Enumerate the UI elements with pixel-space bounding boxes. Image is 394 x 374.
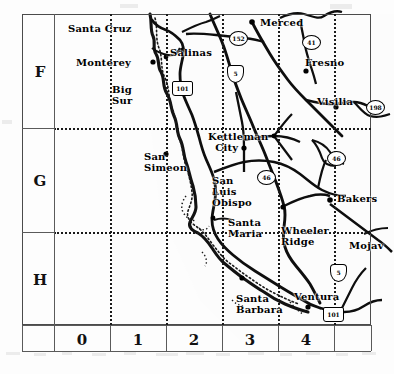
place-label-san-luis-obispo: San Luis Obispo [212,175,252,208]
highway-shield-101-south: 101 [323,307,344,322]
col-gutter-4-right [334,325,335,351]
place-label-kettleman-city: Kettleman City [208,131,268,153]
col-gutter-edge-right [371,325,372,351]
map-container: F G H 0 1 2 3 4 Santa Cruz Monterey Big … [0,0,394,374]
place-label-san-simeon: San Simeon [144,151,187,173]
place-label-monterey: Monterey [76,57,131,68]
highway-shield-46-east: 46 [327,151,346,166]
highway-shield-101-north: 101 [172,81,193,96]
place-label-big-sur: Big Sur [112,84,132,106]
highway-shield-46-west: 46 [257,170,276,185]
grid-col-label-0: 0 [54,331,110,349]
row-rule-g-h [22,232,54,233]
row-rule-f-g [22,128,54,129]
highway-shield-41: 41 [302,35,321,50]
place-label-visilia: Visilia [317,96,353,107]
place-label-merced: Merced [260,17,303,28]
place-label-wheeler-ridge: Wheeler Ridge [281,225,329,247]
place-label-bakersfield: Bakers [337,193,377,204]
grid-col-label-4: 4 [278,331,334,349]
col-label-bottom-rule [22,351,371,352]
highway-shield-198: 198 [366,100,385,115]
grid-row-label-h: H [24,271,56,289]
place-label-ventura: Ventura [294,291,340,302]
place-label-santa-barbara: Santa Barbara [236,293,283,315]
place-label-santa-maria: Santa Maria [228,217,262,239]
graticule-v-3 [222,14,224,325]
place-label-salinas: Salinas [170,47,212,58]
place-label-fresno: Fresno [305,57,344,68]
grid-col-label-2: 2 [166,331,222,349]
grid-row-label-g: G [24,172,56,190]
graticule-h-1 [54,128,371,130]
col-gutter-edge-left [22,325,23,351]
grid-col-label-3: 3 [222,331,278,349]
col-label-top-rule [22,325,371,326]
place-label-santa-cruz: Santa Cruz [68,23,132,34]
graticule-v-4 [278,14,280,325]
grid-row-label-f: F [24,63,56,81]
place-label-mojave: Mojav [349,240,384,251]
grid-col-label-1: 1 [110,331,166,349]
highway-shield-152: 152 [229,31,248,46]
